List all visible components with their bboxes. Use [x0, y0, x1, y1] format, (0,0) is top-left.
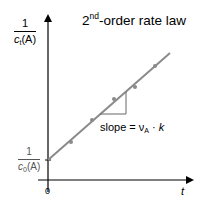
- intercept-denominator: c0(A): [18, 159, 40, 172]
- y-label-denominator: ct(A): [14, 31, 36, 45]
- slope-prefix: slope = ν: [100, 121, 144, 133]
- x-tick-zero: 0: [45, 186, 50, 196]
- data-point: [112, 97, 116, 101]
- data-point: [69, 140, 73, 144]
- x-axis-label: t: [181, 185, 184, 197]
- slope-annotation: slope = νA · k: [100, 121, 164, 133]
- data-point: [153, 64, 157, 68]
- data-point: [90, 118, 94, 122]
- title-rest: -order rate law: [99, 13, 186, 28]
- title-superscript: nd: [90, 11, 99, 21]
- intercept-numerator: 1: [26, 147, 32, 159]
- chart-title: 2nd-order rate law: [82, 13, 186, 28]
- y-intercept-label: 1 c0(A): [18, 147, 40, 172]
- intercept-rest: (A): [27, 161, 40, 172]
- slope-k: k: [159, 121, 165, 133]
- title-base: 2: [82, 13, 90, 28]
- data-point: [133, 85, 137, 89]
- y-axis-label: 1 ct(A): [14, 18, 36, 45]
- slope-dot: ·: [149, 121, 159, 133]
- fit-line: [48, 53, 170, 160]
- y-label-numerator: 1: [22, 18, 28, 31]
- y-label-rest: (A): [21, 33, 36, 45]
